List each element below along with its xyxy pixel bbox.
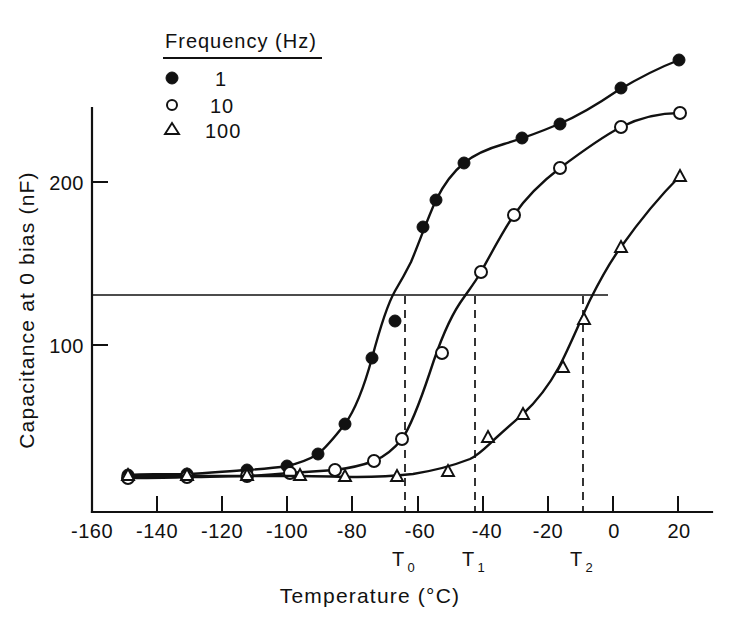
chart-figure: 200 100 -160 -140 -120 -100 -80 -60 -40 … xyxy=(0,0,739,622)
y-axis-tick-labels: 200 100 xyxy=(49,172,84,357)
x-axis-ticks xyxy=(92,496,678,512)
data-point xyxy=(615,82,627,94)
capacitance-vs-temperature-chart: 200 100 -160 -140 -120 -100 -80 -60 -40 … xyxy=(0,0,739,622)
x-axis-title: Temperature (°C) xyxy=(280,584,460,607)
x-tick-label--120: -120 xyxy=(201,520,243,542)
data-point xyxy=(482,431,494,442)
x-tick-label--60: -60 xyxy=(405,520,435,542)
data-point xyxy=(417,221,429,233)
data-point xyxy=(674,170,686,181)
data-point xyxy=(673,54,685,66)
t2-label: T xyxy=(570,548,582,570)
legend-label-1: 1 xyxy=(215,68,227,90)
y-tick-label-200: 200 xyxy=(49,172,84,194)
axis-lines xyxy=(92,108,712,512)
x-tick-label-20: 20 xyxy=(667,520,690,542)
data-point xyxy=(554,162,566,174)
data-point xyxy=(368,455,380,467)
filled-circle-icon xyxy=(166,72,178,84)
data-point xyxy=(389,315,401,327)
legend-entry-1[interactable]: 1 xyxy=(166,68,227,90)
x-tick-label--80: -80 xyxy=(337,520,367,542)
data-point xyxy=(312,448,324,460)
data-point xyxy=(674,107,686,119)
data-point xyxy=(339,418,351,430)
data-point xyxy=(458,157,470,169)
t0-label: T xyxy=(392,548,404,570)
triangle-icon xyxy=(165,123,179,134)
data-point xyxy=(396,433,408,445)
series-1hz xyxy=(122,54,685,481)
legend-entry-10[interactable]: 10 xyxy=(167,95,234,117)
y-axis-title: Capacitance at 0 bias (nF) xyxy=(15,171,38,449)
x-tick-label--100: -100 xyxy=(266,520,308,542)
threshold-labels: T 0 T 1 T 2 xyxy=(392,548,593,575)
x-tick-label--20: -20 xyxy=(533,520,563,542)
data-point xyxy=(366,352,378,364)
data-point xyxy=(430,194,442,206)
threshold-dashed-lines xyxy=(405,296,583,512)
data-point xyxy=(578,313,590,324)
legend: Frequency (Hz) 1 10 100 xyxy=(163,30,322,142)
x-tick-label--40: -40 xyxy=(472,520,502,542)
data-point xyxy=(508,209,520,221)
x-tick-label-0: 0 xyxy=(608,520,620,542)
series-100hz-curve xyxy=(128,176,680,477)
legend-title: Frequency (Hz) xyxy=(165,30,317,52)
x-tick-label--140: -140 xyxy=(136,520,178,542)
open-circle-icon xyxy=(167,100,177,110)
data-point xyxy=(516,132,528,144)
y-axis-ticks xyxy=(92,182,108,345)
t1-subscript: 1 xyxy=(477,560,484,575)
y-tick-label-100: 100 xyxy=(49,335,84,357)
data-point xyxy=(554,118,566,130)
t1-label: T xyxy=(462,548,474,570)
t2-subscript: 2 xyxy=(585,560,592,575)
data-point xyxy=(475,266,487,278)
x-axis-tick-labels: -160 -140 -120 -100 -80 -60 -40 -20 0 20 xyxy=(71,520,691,542)
data-point xyxy=(329,464,341,476)
x-tick-label--160: -160 xyxy=(71,520,113,542)
t0-subscript: 0 xyxy=(407,560,414,575)
legend-label-100: 100 xyxy=(205,120,241,142)
legend-label-10: 10 xyxy=(210,95,234,117)
data-point xyxy=(436,347,448,359)
legend-entry-100[interactable]: 100 xyxy=(165,120,241,142)
series-1hz-markers xyxy=(122,54,685,481)
data-point xyxy=(615,121,627,133)
